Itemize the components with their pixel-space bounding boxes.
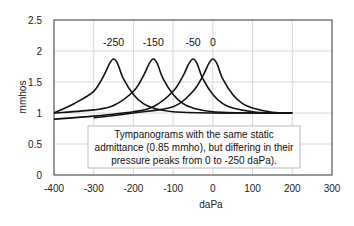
x-tick-label: 100 — [244, 183, 261, 194]
note-line-3: pressure peaks from 0 to -250 daPa). — [111, 155, 277, 166]
y-tick-label: 1 — [36, 108, 42, 119]
x-axis-ticks: -400-300-200-1000100200300 — [44, 183, 341, 194]
x-tick-label: 300 — [324, 183, 341, 194]
y-axis-ticks: 00.511.522.5 — [28, 15, 42, 181]
x-axis-label: daPa — [199, 199, 223, 210]
peak-label: 0 — [210, 36, 216, 48]
y-tick-label: 1.5 — [28, 77, 42, 88]
x-tick-label: 0 — [210, 183, 216, 194]
x-tick-label: -200 — [123, 183, 143, 194]
peak-label: -50 — [185, 36, 200, 48]
note-line-1: Tympanograms with the same static — [114, 129, 274, 140]
peak-labels: -250-150-500 — [103, 36, 216, 48]
x-tick-label: -100 — [163, 183, 183, 194]
note-box: Tympanograms with the same static admitt… — [88, 126, 300, 168]
y-tick-label: 0.5 — [28, 139, 42, 150]
y-tick-label: 2.5 — [28, 15, 42, 26]
y-tick-label: 2 — [36, 46, 42, 57]
series-line-0 — [94, 59, 293, 118]
x-tick-label: 200 — [284, 183, 301, 194]
note-line-2: admittance (0.85 mmho), but differing in… — [95, 142, 294, 153]
y-axis-label: mmhos — [17, 81, 28, 114]
peak-label: -250 — [103, 36, 124, 48]
tympanogram-chart: 00.511.522.5 -400-300-200-1000100200300 … — [0, 0, 354, 226]
peak-label: -150 — [143, 36, 164, 48]
x-tick-label: -300 — [84, 183, 104, 194]
y-tick-label: 0 — [36, 170, 42, 181]
x-tick-label: -400 — [44, 183, 64, 194]
